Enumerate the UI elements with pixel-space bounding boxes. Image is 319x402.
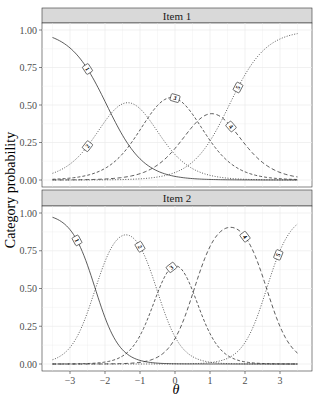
facet-strip-label: Item 2 [163, 192, 191, 204]
x-tick-label: −1 [135, 375, 146, 386]
y-tick-label: 0.50 [20, 100, 38, 111]
x-tick-label: 3 [278, 375, 283, 386]
y-axis-title: Category probability [3, 132, 18, 248]
y-tick-label: 1.00 [20, 25, 38, 36]
panel-1: Item 10.000.250.500.751.0012345 [20, 8, 313, 187]
x-tick-label: −2 [100, 375, 111, 386]
y-tick-label: 0.75 [20, 245, 38, 256]
facet-strip-label: Item 1 [163, 10, 191, 22]
y-tick-label: 0.25 [20, 321, 38, 332]
y-tick-label: 0.25 [20, 137, 38, 148]
x-tick-label: 1 [208, 375, 213, 386]
panel-2: Item 20.000.250.500.751.0012345−3−2−1012… [20, 190, 313, 386]
x-tick-label: −3 [65, 375, 76, 386]
y-tick-label: 1.00 [20, 208, 38, 219]
y-tick-label: 0.50 [20, 283, 38, 294]
x-tick-label: 2 [243, 375, 248, 386]
y-tick-label: 0.75 [20, 62, 38, 73]
x-axis-title: θ [173, 382, 180, 397]
y-tick-label: 0.00 [20, 175, 38, 186]
y-tick-label: 0.00 [20, 359, 38, 370]
category-probability-chart: Item 10.000.250.500.751.0012345Item 20.0… [0, 0, 319, 402]
